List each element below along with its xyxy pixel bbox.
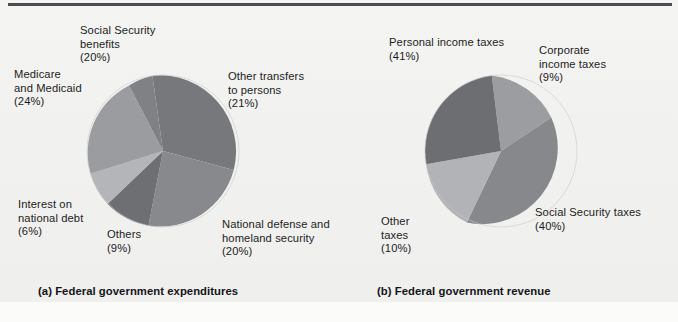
label-others: Others (9%) (107, 228, 141, 255)
figure-container: Social Security benefits (20%) Medicare … (0, 0, 678, 322)
pie-chart-revenue (424, 74, 578, 228)
pie-chart-expenditures (86, 74, 240, 228)
pie-slice-personal-income-taxes (425, 76, 501, 165)
label-national-defense-homeland-security: National defense and homeland security (… (222, 218, 330, 259)
label-personal-income-taxes: Personal income taxes (41%) (389, 36, 504, 63)
caption-federal-government-revenue: (b) Federal government revenue (377, 285, 551, 297)
label-social-security-benefits: Social Security benefits (20%) (80, 24, 156, 65)
label-other-taxes: Other taxes (10%) (381, 215, 411, 256)
label-interest-on-national-debt: Interest on national debt (6%) (18, 198, 83, 239)
label-other-transfers-to-persons: Other transfers to persons (21%) (228, 70, 304, 111)
label-social-security-taxes: Social Security taxes (40%) (535, 206, 641, 233)
top-divider-rule (8, 3, 672, 6)
source-note (6, 310, 672, 321)
label-medicare-and-medicaid: Medicare and Medicaid (24%) (14, 68, 82, 109)
label-corporate-income-taxes: Corporate income taxes (9%) (539, 44, 606, 85)
caption-federal-government-expenditures: (a) Federal government expenditures (38, 285, 238, 297)
